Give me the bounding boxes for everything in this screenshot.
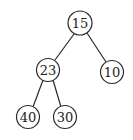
edge-15-23 [55,34,74,60]
node-label: 30 [57,110,74,125]
binary-tree-diagram: 15 23 10 40 30 [0,0,133,140]
edge-23-30 [53,80,61,107]
tree-node-23: 23 [37,59,60,82]
tree-node-15: 15 [68,11,92,35]
edge-15-10 [87,33,106,62]
node-label: 23 [40,63,57,78]
node-label: 10 [104,65,121,80]
node-label: 40 [20,110,37,125]
tree-node-30: 30 [54,106,77,129]
tree-node-10: 10 [101,61,124,84]
node-label: 15 [72,16,89,31]
tree-node-40: 40 [17,106,40,129]
edge-23-40 [33,80,43,107]
